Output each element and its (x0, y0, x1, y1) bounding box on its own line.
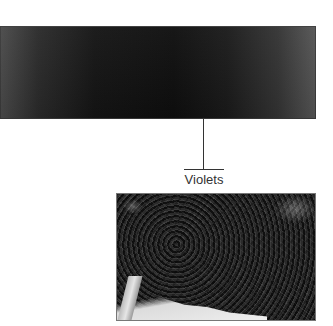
callout-line-horizontal (184, 169, 224, 170)
callout-line-vertical (203, 119, 204, 170)
banner-image (0, 26, 316, 119)
violets-photo (116, 193, 316, 321)
callout-label: Violets (180, 172, 228, 187)
